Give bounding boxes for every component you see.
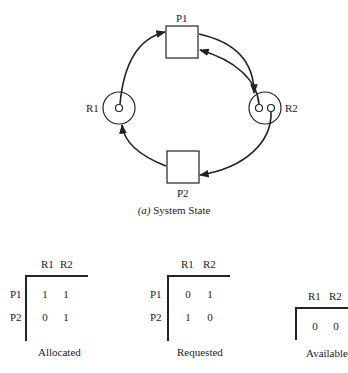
available-left-rule bbox=[295, 307, 297, 340]
r2-instance-dot-1 bbox=[256, 105, 263, 112]
process-p2: P2 bbox=[167, 151, 199, 199]
requested-title: Requested bbox=[177, 346, 223, 358]
allocated-row-p1-label: P1 bbox=[10, 288, 22, 300]
requested-p2-r2: 0 bbox=[203, 311, 217, 323]
allocated-title: Allocated bbox=[38, 346, 81, 358]
resource-r1-label: R1 bbox=[86, 102, 99, 114]
figure-caption: (a) System State bbox=[0, 204, 348, 216]
process-p1: P1 bbox=[166, 12, 198, 58]
available-title: Available bbox=[306, 347, 348, 359]
resource-allocation-graph: P1 P2 R1 R2 bbox=[0, 0, 348, 200]
resource-r2-label: R2 bbox=[285, 102, 298, 114]
available-r1: 0 bbox=[308, 320, 322, 332]
requested-p2-r1: 1 bbox=[181, 311, 195, 323]
allocated-p1-r1: 1 bbox=[38, 288, 52, 300]
available-matrix: R1 R2 0 0 Available bbox=[250, 280, 348, 373]
allocated-matrix: R1 R2 P1 1 1 P2 0 1 Allocated bbox=[0, 250, 120, 373]
r2-instance-dot-2 bbox=[268, 105, 275, 112]
requested-col-r1: R1 bbox=[181, 258, 194, 270]
r1-instance-dot bbox=[116, 105, 123, 112]
edge-p1-to-r2 bbox=[199, 34, 254, 93]
resource-r2: R2 bbox=[249, 92, 298, 124]
allocated-row-p2-label: P2 bbox=[10, 311, 22, 323]
requested-p1-r1: 0 bbox=[181, 288, 195, 300]
edge-r1-to-p1 bbox=[120, 32, 165, 104]
requested-p1-r2: 1 bbox=[203, 288, 217, 300]
requested-row-p2-label: P2 bbox=[150, 311, 162, 323]
requested-top-rule bbox=[167, 275, 230, 277]
requested-row-p1-label: P1 bbox=[150, 288, 162, 300]
available-col-r1: R1 bbox=[308, 290, 321, 302]
caption-text: System State bbox=[150, 204, 210, 216]
allocated-p2-r2: 1 bbox=[59, 311, 73, 323]
process-p1-label: P1 bbox=[176, 12, 188, 24]
available-col-r2: R2 bbox=[329, 290, 342, 302]
available-top-rule bbox=[295, 307, 348, 309]
process-p2-label: P2 bbox=[177, 187, 189, 199]
requested-matrix: R1 R2 P1 0 1 P2 1 0 Requested bbox=[120, 250, 240, 373]
allocated-top-rule bbox=[25, 275, 88, 277]
edge-r2-to-p1 bbox=[200, 50, 259, 104]
allocated-p1-r2: 1 bbox=[59, 288, 73, 300]
caption-prefix: (a) bbox=[138, 204, 151, 216]
allocated-p2-r1: 0 bbox=[38, 311, 52, 323]
edge-p2-to-r1 bbox=[122, 125, 166, 166]
allocated-left-rule bbox=[25, 275, 27, 341]
allocated-col-r2: R2 bbox=[60, 258, 73, 270]
requested-col-r2: R2 bbox=[203, 258, 216, 270]
allocated-col-r1: R1 bbox=[41, 258, 54, 270]
resource-r1: R1 bbox=[86, 92, 135, 124]
available-r2: 0 bbox=[329, 320, 343, 332]
requested-left-rule bbox=[167, 275, 169, 341]
